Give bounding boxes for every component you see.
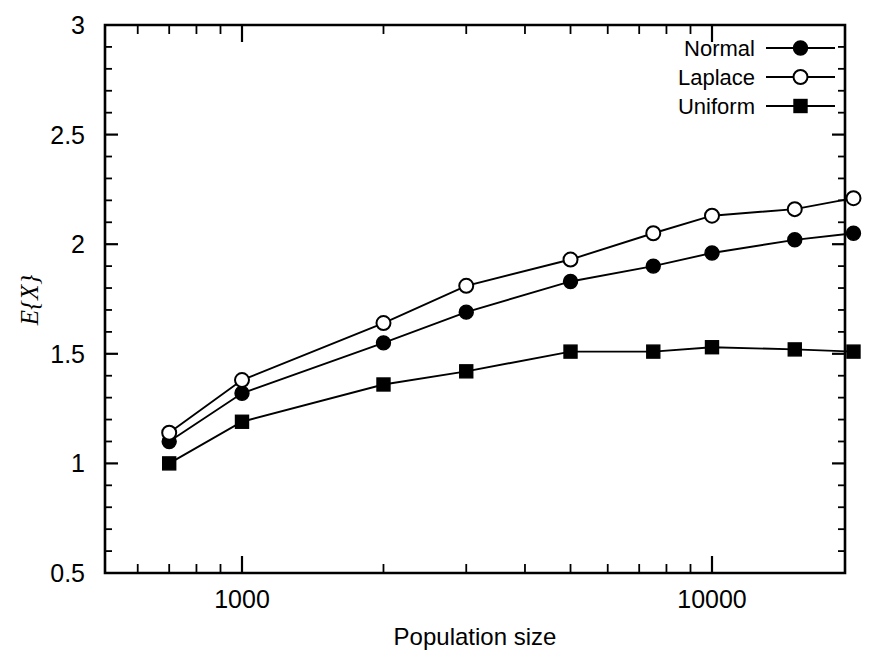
data-point-uniform-7 bbox=[788, 343, 801, 356]
data-point-normal-3 bbox=[459, 305, 473, 319]
legend-marker-laplace bbox=[794, 70, 808, 84]
y-tick-label-1: 1 bbox=[71, 449, 85, 477]
y-tick-label-1.5: 1.5 bbox=[50, 340, 85, 368]
data-point-normal-7 bbox=[788, 233, 802, 247]
chart-figure: 0.511.522.53 100010000 Population size E… bbox=[0, 0, 870, 658]
x-axis-title: Population size bbox=[394, 623, 557, 650]
data-point-laplace-5 bbox=[646, 226, 660, 240]
y-tick-label-3: 3 bbox=[71, 11, 85, 39]
data-point-laplace-7 bbox=[788, 202, 802, 216]
data-point-normal-6 bbox=[705, 246, 719, 260]
data-point-uniform-3 bbox=[460, 365, 473, 378]
y-axis-title: E{X} bbox=[16, 275, 43, 327]
data-point-uniform-1 bbox=[236, 415, 249, 428]
data-point-uniform-2 bbox=[377, 378, 390, 391]
data-point-laplace-2 bbox=[376, 316, 390, 330]
y-axis-title-symbol: E bbox=[16, 310, 43, 326]
y-tick-label-2: 2 bbox=[71, 230, 85, 258]
data-point-laplace-1 bbox=[235, 373, 249, 387]
line-chart: 0.511.522.53 100010000 Population size E… bbox=[0, 0, 870, 658]
legend-label-uniform: Uniform bbox=[678, 94, 755, 119]
data-point-normal-1 bbox=[235, 386, 249, 400]
x-tick-label-10000: 10000 bbox=[677, 585, 747, 613]
data-point-laplace-0 bbox=[162, 426, 176, 440]
data-point-uniform-0 bbox=[163, 457, 176, 470]
data-point-normal-5 bbox=[646, 259, 660, 273]
data-point-normal-2 bbox=[376, 336, 390, 350]
legend-marker-normal bbox=[794, 41, 808, 55]
data-point-normal-8 bbox=[846, 226, 860, 240]
data-point-uniform-5 bbox=[647, 345, 660, 358]
x-tick-label-1000: 1000 bbox=[214, 585, 270, 613]
y-tick-label-0.5: 0.5 bbox=[50, 559, 85, 587]
y-tick-label-2.5: 2.5 bbox=[50, 121, 85, 149]
data-point-uniform-4 bbox=[564, 345, 577, 358]
legend-marker-uniform bbox=[794, 100, 807, 113]
legend-label-normal: Normal bbox=[684, 36, 755, 61]
data-point-normal-4 bbox=[564, 274, 578, 288]
data-point-uniform-6 bbox=[706, 341, 719, 354]
y-axis-title-brace-close: } bbox=[16, 275, 43, 285]
data-point-uniform-8 bbox=[847, 345, 860, 358]
y-axis-title-text: E{X} bbox=[16, 275, 43, 327]
data-point-laplace-6 bbox=[705, 209, 719, 223]
data-point-laplace-4 bbox=[564, 253, 578, 267]
data-point-laplace-3 bbox=[459, 279, 473, 293]
data-point-laplace-8 bbox=[846, 191, 860, 205]
y-axis-title-brace-open: { bbox=[16, 300, 43, 310]
legend-label-laplace: Laplace bbox=[678, 65, 755, 90]
